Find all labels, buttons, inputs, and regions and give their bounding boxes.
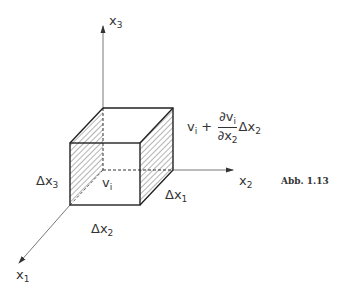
velocity-gradient-formula: vi + ∂vi ∂x2 Δx2 (187, 110, 261, 145)
velocity-vi-label: vi (102, 176, 112, 192)
partial-derivative-fraction: ∂vi ∂x2 (217, 110, 237, 145)
x1-axis (19, 205, 70, 263)
delta-x3-label: Δx3 (36, 174, 58, 190)
delta-x1-label: Δx1 (165, 188, 187, 204)
x3-axis-label: x3 (109, 14, 122, 30)
x1-axis-label: x1 (16, 268, 29, 284)
delta-x2-label: Δx2 (91, 222, 113, 238)
volume-element-diagram (0, 0, 353, 300)
x2-axis-label: x2 (239, 174, 252, 190)
figure-caption: Abb. 1.13 (281, 176, 329, 186)
left-face-hatched (70, 108, 103, 205)
